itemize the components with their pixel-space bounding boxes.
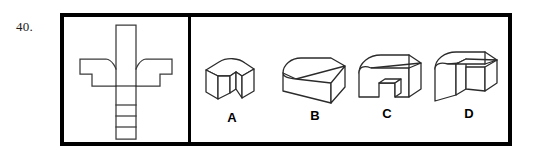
option-c[interactable]: C	[351, 45, 427, 115]
orthographic-view-drawing	[64, 17, 188, 142]
option-a[interactable]: A	[201, 49, 263, 115]
figure-frame: A B	[60, 13, 512, 146]
option-d-isometric-shape	[429, 45, 503, 111]
question-number: 40.	[16, 20, 33, 33]
option-b[interactable]: B	[279, 47, 351, 115]
option-c-isometric-shape	[351, 45, 427, 111]
orthographic-view-panel	[64, 17, 188, 142]
option-b-isometric-shape	[279, 47, 351, 111]
option-d[interactable]: D	[429, 45, 503, 115]
option-b-label: B	[303, 109, 327, 122]
option-d-label: D	[457, 107, 481, 120]
answer-options-panel: A B	[191, 17, 509, 142]
option-a-label: A	[220, 111, 244, 124]
option-a-isometric-shape	[201, 49, 263, 111]
option-c-label: C	[375, 107, 399, 120]
question-item: 40.	[0, 0, 536, 158]
